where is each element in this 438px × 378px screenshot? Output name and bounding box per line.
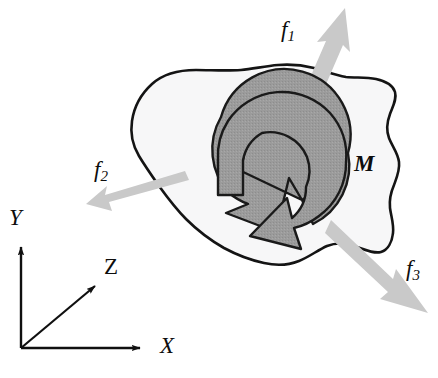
mechanics-free-body-diagram: [0, 0, 438, 378]
force-label-f2-subscript: 2: [100, 168, 108, 184]
coordinate-axes: [21, 247, 140, 348]
z-axis-line: [21, 286, 95, 348]
moment-label-m: M: [354, 152, 374, 175]
axis-label-x: X: [160, 334, 174, 357]
force-label-f3: f3: [406, 257, 420, 283]
force-label-f2: f2: [94, 158, 108, 184]
axis-label-y: Y: [9, 206, 22, 229]
axis-label-z: Z: [104, 255, 118, 278]
force-label-f3-subscript: 3: [412, 267, 420, 283]
figure-canvas: f1 f2 f3 M Y X Z: [0, 0, 438, 378]
force-label-f1-subscript: 1: [287, 28, 295, 44]
force-label-f1: f1: [281, 18, 295, 44]
